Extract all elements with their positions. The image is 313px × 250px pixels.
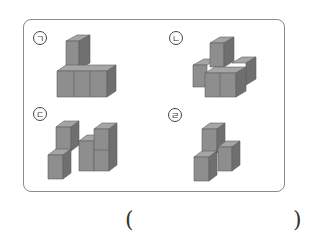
cube-figure-3 [46,119,122,183]
answer-close-paren: ) [293,207,302,232]
option-marker-1: ㄱ [33,31,47,45]
option-marker-3: ㄷ [33,107,47,121]
cube-figure-1 [55,33,125,99]
cube-figure-4 [192,121,248,183]
answer-open-paren: ( [125,207,134,232]
option-marker-2: ㄴ [169,31,183,45]
cube-figure-2 [190,35,260,99]
option-marker-4: ㄹ [168,108,182,122]
